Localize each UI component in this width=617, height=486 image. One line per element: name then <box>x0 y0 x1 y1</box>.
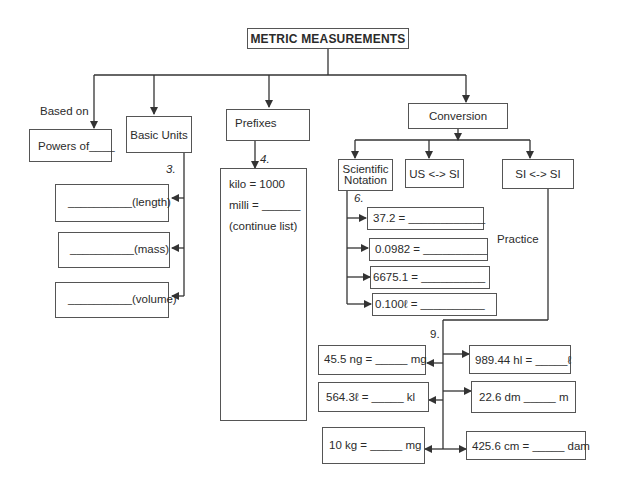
basic-units-box: Basic Units <box>126 116 192 153</box>
prefixes-box: Prefixes <box>226 109 310 141</box>
conversion-box: Conversion <box>408 103 508 129</box>
si-left-item-2: 564.3ℓ = _____ kl <box>318 382 429 412</box>
length-box: __________(length) <box>55 184 169 222</box>
prefixes-list-box: kilo = 1000 milli = ______ (continue lis… <box>220 168 307 421</box>
number-4: 4. <box>260 153 270 165</box>
us-si-box: US <-> SI <box>405 159 464 188</box>
number-6: 6. <box>354 192 364 204</box>
si-left-item-1: 45.5 ng = _____ mg <box>318 345 426 375</box>
title-box: METRIC MEASUREMENTS <box>247 28 409 49</box>
sci-item-3: 6675.1 = __________ <box>370 266 490 289</box>
powers-of-box: Powers of____ <box>29 129 112 162</box>
si-left-item-3: 10 kg = _____ mg <box>322 427 425 464</box>
mass-box: __________(mass) <box>58 232 170 268</box>
number-9: 9. <box>430 328 440 340</box>
scientific-notation-box: ScientificNotation <box>338 159 393 191</box>
sci-item-1: 37.2 = ____________ <box>367 207 484 230</box>
sci-item-4: 0.100ℓ = __________ <box>372 293 497 316</box>
sci-item-2: 0.0982 = __________ <box>369 238 488 261</box>
based-on-label: Based on <box>40 105 89 117</box>
volume-box: __________(volume) <box>55 282 169 318</box>
practice-label: Practice <box>497 233 539 245</box>
number-3: 3. <box>166 163 176 175</box>
si-si-box: SI <-> SI <box>502 159 574 189</box>
title: METRIC MEASUREMENTS <box>250 32 405 46</box>
si-right-item-2: 22.6 dm _____ m <box>471 381 576 413</box>
si-right-item-1: 989.44 hl = _____ℓ <box>469 345 571 374</box>
si-right-item-3: 425.6 cm = _____ dam <box>466 431 586 460</box>
